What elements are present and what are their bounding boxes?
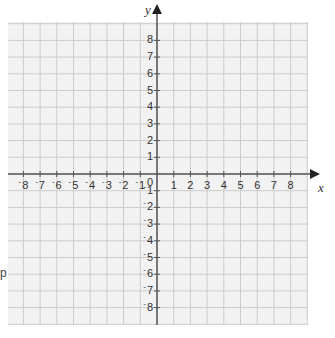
grid — [0, 0, 335, 338]
y-tick-label: 6 — [137, 68, 153, 79]
x-tick-label: 2 — [182, 180, 198, 191]
x-axis-label: x — [318, 180, 324, 196]
x-tick-label: 6 — [249, 180, 265, 191]
x-tick-label: -3 — [99, 180, 115, 191]
x-tick-label: 1 — [166, 180, 182, 191]
y-tick-label: 4 — [137, 101, 153, 112]
y-tick-label: 8 — [137, 34, 153, 45]
y-tick-label: 5 — [137, 85, 153, 96]
x-tick-label: 4 — [216, 180, 232, 191]
x-tick-label: 8 — [283, 180, 299, 191]
coordinate-plane: -8-7-6-5-4-3-2-11234567887654321-1-2-3-4… — [0, 0, 335, 338]
y-tick-label: -2 — [137, 201, 153, 212]
origin-label: 0 — [147, 177, 153, 188]
y-tick-label: -7 — [137, 285, 153, 296]
x-tick-label: -6 — [49, 180, 65, 191]
x-tick-label: -8 — [15, 180, 31, 191]
y-tick-label: 1 — [137, 151, 153, 162]
y-axis-label: y — [145, 2, 151, 18]
x-tick-label: 5 — [233, 180, 249, 191]
x-tick-label: 3 — [199, 180, 215, 191]
stray-letter: p — [0, 266, 7, 280]
x-tick-label: -4 — [82, 180, 98, 191]
x-tick-label: -2 — [116, 180, 132, 191]
y-tick-label: -3 — [137, 218, 153, 229]
y-tick-label: 3 — [137, 118, 153, 129]
y-tick-label: -6 — [137, 268, 153, 279]
x-tick-label: 7 — [266, 180, 282, 191]
x-tick-label: -7 — [32, 180, 48, 191]
y-tick-label: -4 — [137, 235, 153, 246]
y-tick-label: 2 — [137, 135, 153, 146]
y-tick-label: 7 — [137, 51, 153, 62]
y-tick-label: -5 — [137, 252, 153, 263]
x-tick-label: -5 — [66, 180, 82, 191]
y-tick-label: -8 — [137, 302, 153, 313]
